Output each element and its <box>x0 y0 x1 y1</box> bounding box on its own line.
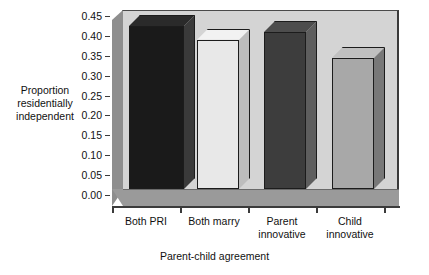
x-axis-line <box>112 206 400 208</box>
y-tick-label: 0.10 <box>70 150 102 160</box>
bar-side-face <box>374 47 385 189</box>
y-tick-mark <box>105 195 110 196</box>
bar-front-face <box>129 26 184 189</box>
x-tick-label-line: innovative <box>310 228 390 241</box>
y-tick-mark <box>105 36 110 37</box>
y-tick-label: 0.35 <box>70 51 102 61</box>
y-tick-mark <box>105 175 110 176</box>
y-tick-label: 0.45 <box>70 11 102 21</box>
x-axis-title: Parent-child agreement <box>0 250 429 262</box>
x-axis-tick-labels: Both PRIBoth marryParentinnovativeChildi… <box>104 215 409 249</box>
bar-3 <box>264 21 306 189</box>
y-tick-label: 0.05 <box>70 170 102 180</box>
y-tick-label: 0.40 <box>70 31 102 41</box>
y-tick-label: 0.15 <box>70 130 102 140</box>
chart-figure: Proportion residentially independent 0.0… <box>0 0 429 275</box>
bar-1 <box>129 15 184 189</box>
bar-side-face <box>239 29 250 189</box>
y-axis-ticks: 0.000.050.100.150.200.250.300.350.400.45 <box>78 10 110 206</box>
plot-floor-edge <box>123 189 399 190</box>
x-tick-mark <box>248 206 250 213</box>
bar-front-face <box>264 32 306 189</box>
plot-left-wall <box>112 10 123 206</box>
x-tick-label: Childinnovative <box>310 215 390 240</box>
bar-side-face <box>184 15 195 189</box>
bar-front-face <box>332 58 374 189</box>
y-tick-mark <box>105 155 110 156</box>
y-tick-mark <box>105 56 110 57</box>
bar-4 <box>332 47 374 189</box>
x-tick-mark <box>316 206 318 213</box>
bar-front-face <box>197 40 239 189</box>
y-tick-mark <box>105 96 110 97</box>
x-tick-label-line: Child <box>310 215 390 228</box>
y-tick-label: 0.30 <box>70 71 102 81</box>
y-tick-mark <box>105 16 110 17</box>
y-tick-label: 0.25 <box>70 91 102 101</box>
y-tick-label: 0.20 <box>70 110 102 120</box>
y-tick-mark <box>105 76 110 77</box>
bar-side-face <box>306 21 317 189</box>
y-tick-label: 0.00 <box>70 190 102 200</box>
x-tick-mark <box>384 206 386 213</box>
plot-area <box>112 10 399 206</box>
bar-top-face <box>129 15 195 26</box>
y-tick-mark <box>105 135 110 136</box>
x-tick-mark <box>112 206 114 213</box>
plot-floor <box>112 189 399 206</box>
x-tick-mark <box>180 206 182 213</box>
y-tick-mark <box>105 115 110 116</box>
bar-2 <box>197 29 239 189</box>
